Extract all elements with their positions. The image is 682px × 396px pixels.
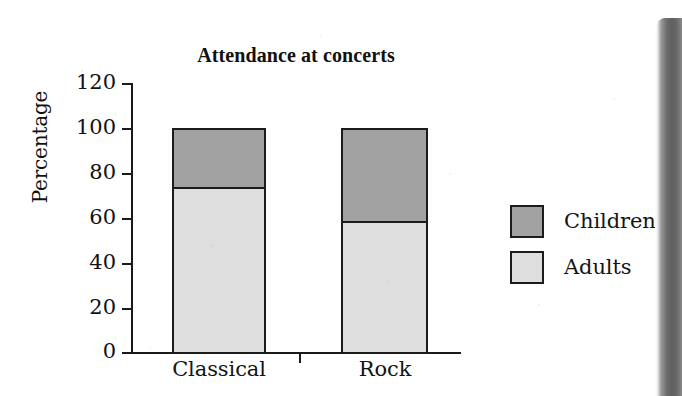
legend-item-adults: Adults bbox=[510, 244, 656, 290]
y-tick-label-20: 20 bbox=[46, 295, 116, 319]
bar-classical-adults bbox=[172, 187, 266, 354]
x-axis-label-classical: Classical bbox=[129, 357, 309, 381]
y-tick-label-60: 60 bbox=[46, 205, 116, 229]
y-tick-20 bbox=[122, 308, 132, 310]
chart-title: Attendance at concerts bbox=[131, 44, 461, 67]
y-tick-60 bbox=[122, 218, 132, 220]
y-tick-label-100: 100 bbox=[46, 115, 116, 139]
legend-item-children: Children bbox=[510, 198, 656, 244]
legend-label-adults: Adults bbox=[564, 255, 631, 279]
y-axis-title: Percentage bbox=[28, 72, 52, 222]
y-tick-40 bbox=[122, 263, 132, 265]
legend-swatch-adults-icon bbox=[510, 251, 544, 284]
y-tick-120 bbox=[122, 83, 132, 85]
bar-classical-children bbox=[172, 128, 266, 189]
y-tick-label-0: 0 bbox=[46, 339, 116, 363]
chart-figure: Attendance at concerts Percentage 120 10… bbox=[0, 0, 682, 396]
legend-swatch-children-icon bbox=[510, 205, 544, 238]
y-tick-100 bbox=[122, 128, 132, 130]
y-tick-label-120: 120 bbox=[46, 70, 116, 94]
bar-rock-children bbox=[341, 128, 428, 223]
y-tick-label-80: 80 bbox=[46, 160, 116, 184]
y-tick-0 bbox=[122, 352, 132, 354]
y-tick-80 bbox=[122, 173, 132, 175]
y-tick-label-40: 40 bbox=[46, 250, 116, 274]
bar-rock-adults bbox=[341, 221, 428, 354]
page-gutter-shadow bbox=[655, 18, 682, 396]
x-axis-label-rock: Rock bbox=[295, 357, 475, 381]
chart-legend: Children Adults bbox=[510, 198, 656, 290]
legend-label-children: Children bbox=[564, 209, 656, 233]
